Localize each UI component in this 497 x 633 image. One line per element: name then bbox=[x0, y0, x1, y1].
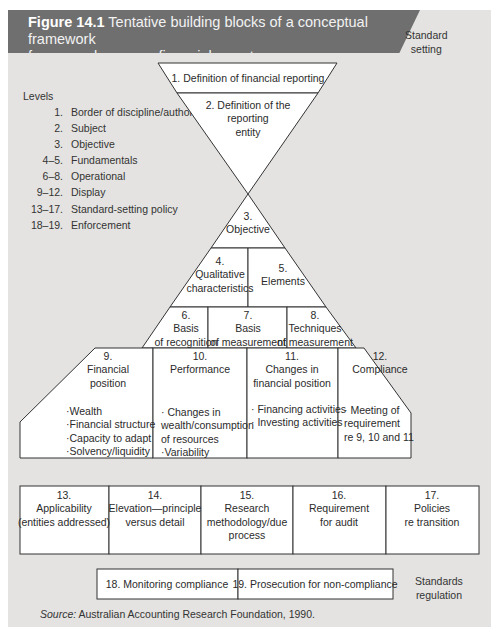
block-10-label: 10. bbox=[193, 350, 208, 362]
block-16-label: Requirement bbox=[309, 502, 369, 514]
block-15-label: 15. bbox=[240, 489, 255, 501]
block-9-bullet: ·Capacity to adapt bbox=[66, 432, 151, 444]
block-10-bullet: wealth/consumption bbox=[160, 419, 254, 431]
block-9-bullet: ·Solvency/liquidity bbox=[66, 445, 151, 457]
source-note: Source: Australian Accounting Research F… bbox=[40, 608, 315, 620]
block-14-label: versus detail bbox=[126, 516, 185, 528]
block-8-label: 8. bbox=[311, 309, 320, 321]
block-18-label: 18. Monitoring compliance bbox=[106, 578, 229, 590]
block-1-label: 1. Definition of financial reporting bbox=[172, 72, 325, 84]
block-10-bullet: of resources bbox=[161, 433, 219, 445]
block-10-bullet: ·Variability bbox=[161, 446, 210, 458]
block-2-label: entity bbox=[235, 126, 261, 138]
block-12-bullet: requirement bbox=[344, 417, 400, 429]
block-9-label: 9. bbox=[104, 350, 113, 362]
block-9-bullet: ·Wealth bbox=[66, 405, 102, 417]
block-9-label: Financial bbox=[87, 363, 129, 375]
block-13-label: (entities addressed) bbox=[18, 516, 110, 528]
block-8-label: Techniques bbox=[288, 322, 341, 334]
block-5-label: 5. bbox=[279, 262, 288, 274]
block-17-label: 17. bbox=[425, 489, 440, 501]
block-15-label: process bbox=[229, 529, 266, 541]
block-6-label: 6. bbox=[182, 309, 191, 321]
block-8-label: of measurement bbox=[277, 336, 353, 348]
block-4-label: 4. bbox=[216, 255, 225, 267]
figure-page: Figure 14.1 Tentative building blocks of… bbox=[8, 10, 491, 627]
block-12-bullet: · Meeting of bbox=[344, 404, 400, 416]
block-9-bullet: ·Financial structure bbox=[66, 418, 155, 430]
block-17-label: Policies bbox=[414, 502, 450, 514]
block-16-label: 16. bbox=[332, 489, 347, 501]
source-text: Australian Accounting Research Foundatio… bbox=[76, 608, 315, 620]
framework-diagram: 1. Definition of financial reporting2. D… bbox=[8, 10, 491, 627]
block-5-label: Elements bbox=[261, 275, 305, 287]
block-14-label: 14. bbox=[148, 489, 163, 501]
block-11-label: 11. bbox=[285, 350, 299, 362]
block-16-label: for audit bbox=[320, 516, 358, 528]
block-9-label: position bbox=[90, 377, 126, 389]
block-12-label: 12. bbox=[373, 350, 388, 362]
block-11-label: Changes in bbox=[265, 363, 318, 375]
block-11-label: financial position bbox=[253, 377, 331, 389]
block-13-label: 13. bbox=[57, 489, 72, 501]
block-11-bullet: · Financing activities bbox=[251, 403, 346, 415]
source-label: Source: bbox=[40, 608, 76, 620]
block-17-label: re transition bbox=[405, 516, 460, 528]
block-10-bullet: · Changes in bbox=[161, 406, 221, 418]
block-7-label: of measurement bbox=[210, 336, 286, 348]
block-12-bullet: re 9, 10 and 11 bbox=[344, 431, 414, 443]
block-7-label: 7. bbox=[244, 309, 253, 321]
block-4-label: Qualitative bbox=[195, 268, 245, 280]
block-12-label: Compliance bbox=[352, 363, 408, 375]
block-19-label: 19. Prosecution for non-compliance bbox=[232, 578, 397, 590]
block-6-label: of recognition bbox=[154, 336, 217, 348]
block-3-label: 3. bbox=[244, 210, 253, 222]
block-2-label: 2. Definition of the bbox=[206, 99, 291, 111]
block-11-bullet: · Investing activities bbox=[251, 416, 343, 428]
block-13-label: Applicability bbox=[36, 502, 92, 514]
block-7-label: Basis bbox=[235, 322, 261, 334]
block-14-label: Elevation—principle bbox=[109, 502, 202, 514]
block-15-label: methodology/due bbox=[207, 516, 288, 528]
block-2-label: reporting bbox=[227, 112, 269, 124]
block-6-label: Basis bbox=[173, 322, 199, 334]
block-3-label: Objective bbox=[226, 223, 270, 235]
block-4-label: characteristics bbox=[186, 282, 253, 294]
block-10-label: Performance bbox=[170, 363, 230, 375]
block-15-label: Research bbox=[225, 502, 270, 514]
